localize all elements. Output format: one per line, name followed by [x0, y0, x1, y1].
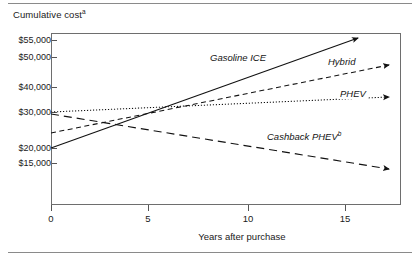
series-label-cashback-phev: Cashback PHEVb	[265, 131, 343, 142]
x-tick-label: 0	[48, 213, 53, 224]
x-tick-mark	[148, 205, 149, 211]
series-label-text: PHEV	[340, 88, 366, 99]
series-label-gasoline-ice: Gasoline ICE	[208, 52, 268, 63]
series-label-phev: PHEV	[338, 88, 368, 99]
x-axis-title: Years after purchase	[0, 231, 420, 242]
x-tick-mark	[248, 205, 249, 211]
series-label-hybrid: Hybrid	[326, 56, 357, 67]
series-line-hybrid	[51, 65, 389, 133]
x-axis-title-text: Years after purchase	[198, 231, 285, 242]
series-label-superscript: b	[338, 130, 342, 137]
x-tick-label: 5	[145, 213, 150, 224]
series-lines-layer	[0, 0, 420, 261]
figure-container: Cumulative costa $55,000 $50,000 $40,000…	[0, 0, 420, 261]
x-tick-label: 15	[340, 213, 351, 224]
series-label-text: Gasoline ICE	[210, 52, 266, 63]
series-label-text: Cashback PHEV	[267, 131, 338, 142]
x-tick-label: 10	[243, 213, 254, 224]
x-tick-mark	[345, 205, 346, 211]
x-tick-mark	[51, 205, 52, 211]
series-label-text: Hybrid	[328, 56, 355, 67]
